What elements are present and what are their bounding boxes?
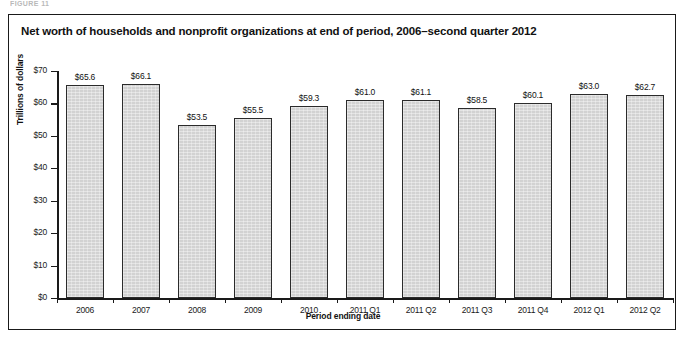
x-axis-separator-tick — [113, 298, 114, 303]
bar[interactable] — [514, 103, 552, 298]
bar-value-label: $63.0 — [579, 81, 599, 91]
figure-panel: Net worth of households and nonprofit or… — [8, 14, 676, 330]
bar-value-label: $55.5 — [243, 105, 263, 115]
y-axis-tick-label: $20 — [33, 227, 47, 237]
y-axis-title: Trillions of dollars — [15, 54, 25, 125]
x-axis-separator-tick — [617, 298, 618, 303]
bar-group[interactable]: $55.5 — [234, 71, 272, 298]
bar-group[interactable]: $59.3 — [290, 71, 328, 298]
bar-group[interactable]: $53.5 — [178, 71, 216, 298]
bar-value-label: $66.1 — [131, 71, 151, 81]
bar[interactable] — [626, 95, 664, 298]
y-axis-tick-label: $60 — [33, 97, 47, 107]
bar[interactable] — [178, 125, 216, 298]
y-axis-tick-label: $40 — [33, 162, 47, 172]
y-axis-tick-label: $50 — [33, 130, 47, 140]
x-axis-line — [57, 298, 673, 300]
bar-group[interactable]: $60.1 — [514, 71, 552, 298]
plot-area: $0$10$20$30$40$50$60$70 $65.6$66.1$53.5$… — [57, 71, 673, 298]
bar-value-label: $53.5 — [187, 112, 207, 122]
bar-group[interactable]: $65.6 — [66, 71, 104, 298]
y-axis-tick: $20 — [51, 233, 57, 234]
bar-group[interactable]: $66.1 — [122, 71, 160, 298]
x-axis-separator-tick — [337, 298, 338, 303]
bar[interactable] — [346, 100, 384, 298]
bar[interactable] — [290, 106, 328, 298]
y-axis-tick: $60 — [51, 103, 57, 104]
bar[interactable] — [122, 84, 160, 298]
x-axis-separator-tick — [561, 298, 562, 303]
y-axis-tick-label: $10 — [33, 260, 47, 270]
y-axis-tick-label: $30 — [33, 195, 47, 205]
bar[interactable] — [570, 94, 608, 298]
bar-value-label: $65.6 — [75, 72, 95, 82]
chart-title: Net worth of households and nonprofit or… — [21, 25, 537, 37]
bar-group[interactable]: $63.0 — [570, 71, 608, 298]
y-axis-tick: $70 — [51, 71, 57, 72]
bar-value-label: $61.0 — [355, 87, 375, 97]
y-axis-tick: $30 — [51, 201, 57, 202]
y-axis-tick-label: $70 — [33, 65, 47, 75]
x-axis-separator-tick — [673, 298, 674, 303]
bar-value-label: $60.1 — [523, 90, 543, 100]
bar-group[interactable]: $58.5 — [458, 71, 496, 298]
y-axis-tick: $10 — [51, 266, 57, 267]
x-axis-separator-tick — [449, 298, 450, 303]
bar-value-label: $62.7 — [635, 82, 655, 92]
x-axis-separator-tick — [281, 298, 282, 303]
x-axis-separator-tick — [225, 298, 226, 303]
x-axis-separator-tick — [169, 298, 170, 303]
bar[interactable] — [458, 108, 496, 298]
bar[interactable] — [66, 85, 104, 298]
bar-value-label: $58.5 — [467, 95, 487, 105]
bar-value-label: $61.1 — [411, 87, 431, 97]
bar-group[interactable]: $61.1 — [402, 71, 440, 298]
figure-caption-sliver: FIGURE 11 — [10, 0, 130, 6]
x-axis-separator-tick — [393, 298, 394, 303]
bar-group[interactable]: $62.7 — [626, 71, 664, 298]
y-axis-tick: $40 — [51, 168, 57, 169]
bar[interactable] — [402, 100, 440, 298]
bar[interactable] — [234, 118, 272, 298]
x-axis-separator-tick — [505, 298, 506, 303]
y-axis-tick: $50 — [51, 136, 57, 137]
x-axis-title: Period ending date — [9, 311, 677, 321]
y-axis-tick-label: $0 — [38, 292, 47, 302]
bar-group[interactable]: $61.0 — [346, 71, 384, 298]
x-axis-separator-tick — [57, 298, 58, 303]
bar-value-label: $59.3 — [299, 93, 319, 103]
y-axis-line — [57, 71, 59, 298]
